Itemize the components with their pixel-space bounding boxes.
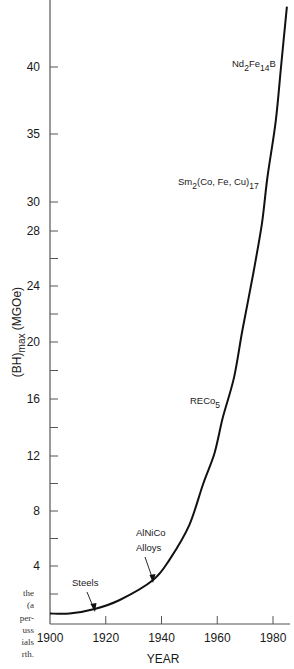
- y-tick-label: 40: [27, 60, 41, 74]
- x-ticks: 19001920194019601980: [37, 616, 287, 645]
- x-tick-label: 1900: [37, 631, 64, 645]
- y-tick-label: 28: [27, 224, 41, 238]
- caption-line: the: [0, 587, 34, 599]
- y-tick-label: 4: [33, 559, 40, 573]
- caption-line: (a: [0, 599, 34, 611]
- y-axis-label: (BH)max (MGOe): [10, 287, 27, 377]
- annotation-alnico-line1: AlNiCo: [136, 527, 166, 538]
- y-tick-label: 24: [27, 279, 41, 293]
- x-tick-label: 1940: [148, 631, 175, 645]
- y-tick-label: 35: [27, 127, 41, 141]
- y-tick-label: 20: [27, 335, 41, 349]
- y-tick-label: 12: [27, 449, 41, 463]
- y-tick-label: 8: [33, 504, 40, 518]
- x-axis-label: YEAR: [147, 652, 180, 666]
- annotation-steels: Steels: [72, 577, 99, 588]
- y-tick-label: 16: [27, 392, 41, 406]
- annotation-alnico-line2: Alloys: [136, 542, 162, 553]
- x-tick-label: 1920: [92, 631, 119, 645]
- annotation-reco5: RECo5: [190, 395, 220, 410]
- caption-line: uss: [0, 624, 34, 636]
- x-tick-label: 1960: [204, 631, 231, 645]
- annotation-sm2cofecu17: Sm2(Co, Fe, Cu)17: [178, 176, 259, 191]
- x-tick-label: 1980: [260, 631, 287, 645]
- y-ticks: 481216202428303540: [27, 60, 58, 594]
- caption-line: rth.: [0, 648, 34, 660]
- annotation-nd2fe14b: Nd2Fe14B: [232, 58, 276, 73]
- caption-line: ials: [0, 636, 34, 648]
- caption-line: per-: [0, 612, 34, 624]
- data-curve: [50, 7, 287, 614]
- caption-fragment: the (a per- uss ials rth.: [0, 587, 34, 661]
- y-tick-label: 30: [27, 195, 41, 209]
- chart: 481216202428303540 19001920194019601980 …: [0, 0, 294, 669]
